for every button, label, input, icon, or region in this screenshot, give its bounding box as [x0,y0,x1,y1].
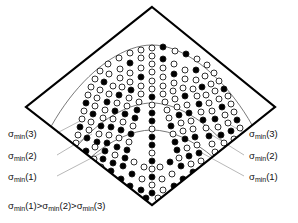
marker-open [149,126,155,132]
marker-open [116,135,122,141]
marker-open [182,67,188,73]
marker-open [124,103,130,109]
marker-open [203,92,209,98]
marker-solid [221,86,227,92]
marker-solid [120,163,126,169]
marker-solid [149,158,155,164]
marker-open [79,116,85,122]
marker-open [96,131,102,137]
marker-solid [149,174,155,180]
marker-solid [104,140,110,146]
marker-open [174,104,180,110]
figure-container: σmin(3) σmin(2) σmin(1) σmin(3) σmin(2) … [0,0,298,223]
marker-solid [83,100,89,106]
marker-open [149,102,155,108]
marker-solid [108,124,114,130]
marker-open [194,93,200,99]
marker-open [216,96,222,102]
marker-solid [186,110,192,116]
marker-open [149,166,155,172]
marker-open [131,159,137,165]
marker-solid [199,84,205,90]
marker-solid [112,108,118,114]
marker-solid [182,93,188,99]
marker-solid [160,56,166,62]
marker-open [116,55,122,61]
marker-open [172,48,178,54]
marker-open [138,55,144,61]
marker-solid [98,123,104,129]
marker-solid [200,117,206,123]
marker-open [169,171,175,177]
marker-solid [118,127,124,133]
marker-open [130,123,136,129]
marker-solid [138,187,144,193]
marker-solid [122,111,128,117]
marker-open [166,115,172,121]
marker-open [222,112,228,118]
marker-solid [192,134,198,140]
marker-solid [193,67,199,73]
marker-open [105,61,111,67]
marker-solid [186,153,192,159]
marker-open [171,61,177,67]
marker-solid [234,117,240,123]
marker-solid [183,51,189,57]
marker-open [114,100,120,106]
marker-open [209,141,215,147]
marker-open [180,128,186,134]
diagram-svg: σmin(3) σmin(2) σmin(1) σmin(3) σmin(2) … [0,0,298,223]
marker-open [211,70,217,76]
marker-open [225,93,231,99]
marker-open [106,91,112,97]
marker-open [188,118,194,124]
marker-open [120,119,126,125]
marker-open [138,83,144,89]
marker-solid [114,144,120,150]
marker-open [106,71,112,77]
marker-solid [149,118,155,124]
marker-solid [90,111,96,117]
marker-open [157,164,163,170]
marker-open [212,88,218,94]
marker-open [149,45,155,51]
marker-solid [149,142,155,148]
marker-solid [171,71,177,77]
marker-solid [132,115,138,121]
marker-open [138,65,144,71]
marker-open [149,53,155,59]
marker-open [231,109,237,115]
marker-open [194,142,200,148]
marker-open [180,85,186,91]
marker-open [170,131,176,137]
marker-solid [127,60,133,66]
marker-open [206,100,212,106]
marker-open [202,73,208,79]
marker-solid [134,107,140,113]
marker-open [194,56,200,62]
marker-solid [219,104,225,110]
marker-open [81,108,87,114]
marker-solid [228,128,234,134]
marker-open [160,91,166,97]
marker-solid [149,94,155,100]
marker-open [75,132,81,138]
marker-open [190,86,196,92]
marker-solid [149,110,155,116]
marker-open [86,127,92,133]
marker-solid [172,139,178,145]
marker-solid [149,190,155,196]
marker-open [119,84,125,90]
marker-open [88,119,94,125]
marker-open [149,182,155,188]
marker-open [182,76,188,82]
marker-open [178,120,184,126]
marker-open [171,80,177,86]
marker-solid [128,131,134,137]
marker-open [160,187,166,193]
marker-open [225,120,231,126]
marker-open [162,99,168,105]
marker-open [149,86,155,92]
marker-open [138,47,144,53]
marker-open [127,70,133,76]
